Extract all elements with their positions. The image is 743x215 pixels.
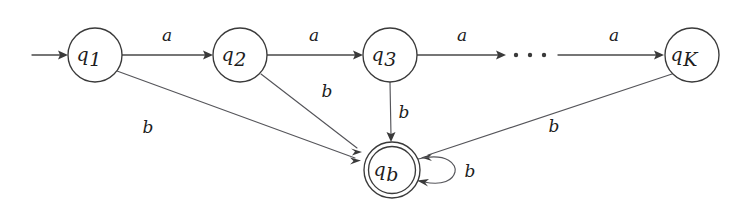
state-qK[interactable]: qK xyxy=(665,28,719,82)
state-q1[interactable]: q1 xyxy=(68,28,122,82)
state-q3[interactable]: q3 xyxy=(363,28,417,82)
state-q2[interactable]: q2 xyxy=(213,28,267,82)
edge-label-q3-ellipsis: a xyxy=(457,25,467,45)
automaton-diagram: a a a a b xyxy=(0,0,743,215)
edge-label-q2-q3: a xyxy=(309,25,319,45)
ellipsis-dots xyxy=(514,53,546,57)
transition-qb-self-loop: b xyxy=(417,157,475,187)
edge-label-q2-qb: b xyxy=(322,81,333,101)
transition-q2-qb: b xyxy=(261,74,362,156)
transition-q3-ellipsis: a xyxy=(417,25,506,60)
transition-q1-q2: a xyxy=(122,25,213,60)
transition-q3-qb: b xyxy=(387,82,410,142)
edge-label-q1-q2: a xyxy=(162,25,172,45)
edge-label-qb-self-loop: b xyxy=(465,161,476,181)
transition-qK-qb: b xyxy=(421,74,672,161)
edge-label-qK-qb: b xyxy=(549,116,560,136)
transition-q2-q3: a xyxy=(267,25,363,60)
start-arrow xyxy=(32,51,68,60)
edge-label-q3-qb: b xyxy=(399,102,410,122)
edge-label-ellipsis-qK: a xyxy=(609,25,619,45)
edge-label-q1-qb: b xyxy=(143,117,154,137)
state-qb-accepting[interactable]: qb xyxy=(364,142,420,198)
transition-ellipsis-qK: a xyxy=(558,25,664,60)
automaton-canvas: a a a a b xyxy=(0,0,743,215)
